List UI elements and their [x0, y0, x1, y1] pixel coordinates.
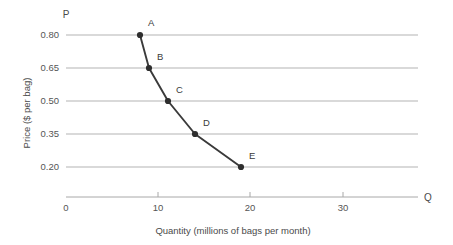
- x-tick-label-2: 20: [245, 202, 256, 213]
- y-tick-label-2: 0.50: [41, 95, 60, 106]
- data-point-b: [146, 65, 152, 71]
- data-point-label-a: A: [148, 17, 155, 28]
- x-tick-label-3: 30: [338, 202, 349, 213]
- chart-canvas: 0.80 0.65 0.50 0.35 0.20 0 10 20 30 P Q …: [0, 0, 453, 245]
- y-tick-label-3: 0.35: [41, 128, 60, 139]
- y-axis-symbol: P: [63, 9, 70, 20]
- data-point-label-e: E: [249, 150, 255, 161]
- data-point-label-c: C: [176, 84, 183, 95]
- demand-curve-chart: 0.80 0.65 0.50 0.35 0.20 0 10 20 30 P Q …: [0, 0, 453, 245]
- y-tick-label-0: 0.80: [41, 29, 60, 40]
- data-point-e: [238, 164, 244, 170]
- data-point-a: [137, 32, 143, 38]
- x-axis-symbol: Q: [424, 192, 432, 203]
- data-point-d: [192, 131, 198, 137]
- x-tick-label-1: 10: [153, 202, 164, 213]
- data-point-label-b: B: [157, 51, 163, 62]
- y-tick-label-4: 0.20: [41, 161, 60, 172]
- y-tick-label-1: 0.65: [41, 62, 60, 73]
- x-axis-title: Quantity (millions of bags per month): [155, 225, 310, 236]
- y-axis-title: Price ($ per bag): [21, 78, 32, 149]
- data-point-label-d: D: [203, 117, 210, 128]
- data-point-c: [165, 98, 171, 104]
- x-tick-label-0: 0: [63, 202, 68, 213]
